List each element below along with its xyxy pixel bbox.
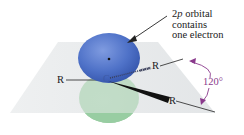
orbital-caption: 2p orbital contains one electron <box>172 9 224 41</box>
bond-angle-label: 120° <box>203 76 223 87</box>
substituent-r-front: R <box>169 96 176 107</box>
central-carbon: C <box>103 74 110 84</box>
substituent-r-back: R <box>152 61 159 72</box>
caption-arrow <box>127 16 167 43</box>
nucleus-dot <box>108 58 111 61</box>
angle-arrowhead-top <box>189 58 196 64</box>
caption-line-1: 2p orbital <box>172 9 224 20</box>
caption-line-3: one electron <box>172 30 224 41</box>
caption-suffix: orbital <box>183 8 213 19</box>
orbital-diagram: 2p orbital contains one electron R R R C… <box>0 0 244 135</box>
substituent-r-left: R <box>57 75 64 86</box>
